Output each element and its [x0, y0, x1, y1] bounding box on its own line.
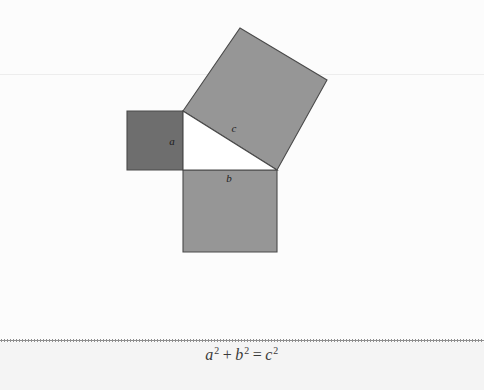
square-c-label: c: [232, 122, 237, 134]
equation-c-exponent: 2: [273, 345, 279, 356]
equation-b-exponent: 2: [244, 345, 250, 356]
equation-plus: +: [220, 346, 236, 363]
page-canvas: a b c a2+b2=c2: [0, 0, 484, 390]
equation-c: c: [265, 346, 273, 363]
pythagorean-equation: a2+b2=c2: [0, 346, 484, 364]
pythagorean-figure-svg: a b c: [0, 0, 484, 330]
pythagorean-figure: a b c: [0, 0, 484, 330]
square-a-label: a: [169, 135, 175, 147]
dotted-separator: [0, 339, 484, 342]
equation-a: a: [205, 346, 214, 363]
square-b-label: b: [226, 172, 232, 184]
equation-b: b: [235, 346, 244, 363]
equation-a-exponent: 2: [214, 345, 220, 356]
equation-equals: =: [250, 346, 266, 363]
